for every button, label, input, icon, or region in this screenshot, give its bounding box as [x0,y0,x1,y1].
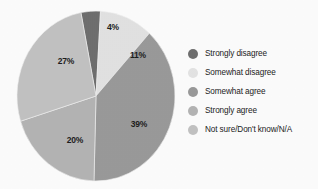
pie-chart-figure: 4%11%39%20%27% Strongly disagreeSomewhat… [0,0,318,189]
pie-slice-group [17,11,175,181]
legend-item-4[interactable]: Not sure/Don't know/N/A [188,120,318,139]
pie-slice-value-somewhat-disagree: 11% [130,50,146,60]
chart-legend: Strongly disagreeSomewhat disagreeSomewh… [188,44,318,139]
legend-swatch-icon [188,125,198,135]
legend-swatch-icon [188,49,198,59]
legend-swatch-icon [188,87,198,97]
legend-item-label: Not sure/Don't know/N/A [205,125,292,134]
legend-item-label: Somewhat disagree [205,68,276,77]
legend-item-label: Strongly agree [205,106,257,115]
legend-swatch-icon [188,106,198,116]
legend-item-3[interactable]: Strongly agree [188,101,318,120]
pie-slice-value-strongly-disagree: 4% [107,22,119,32]
legend-item-2[interactable]: Somewhat agree [188,82,318,101]
legend-swatch-icon [188,68,198,78]
pie-chart-plot-area: 4%11%39%20%27% [10,6,182,184]
pie-slice-value-somewhat-agree: 39% [131,119,147,129]
pie-slice-value-strongly-agree: 20% [67,135,83,145]
legend-item-1[interactable]: Somewhat disagree [188,63,318,82]
legend-item-label: Somewhat agree [205,87,266,96]
legend-item-label: Strongly disagree [205,49,267,58]
legend-item-0[interactable]: Strongly disagree [188,44,318,63]
pie-chart-svg [10,6,182,184]
pie-slice-value-not-sure: 27% [58,56,74,66]
